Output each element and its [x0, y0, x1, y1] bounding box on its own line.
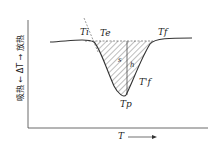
dta-curve-diagram — [0, 0, 223, 161]
label-Tf-prime: T'f — [139, 78, 151, 87]
label-Tp: Tp — [120, 100, 132, 109]
x-arrow-icon — [152, 135, 157, 139]
label-Tf: Tf — [158, 28, 167, 37]
x-axis-label: T — [118, 132, 124, 141]
label-Te: Te — [100, 29, 111, 38]
label-Ti: Ti — [80, 28, 89, 37]
label-h: h — [130, 62, 135, 69]
label-s: s — [118, 57, 122, 64]
peak-area-hatch — [94, 41, 153, 96]
y-axis-label: 吸热 ← ΔT → 放热 — [12, 18, 26, 118]
